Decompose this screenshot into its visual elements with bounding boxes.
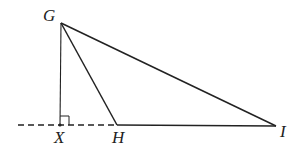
segment-gx-altitude — [60, 23, 61, 125]
label-g: G — [43, 6, 55, 25]
label-x: X — [53, 128, 65, 147]
right-angle-marker — [60, 116, 69, 125]
segment-gi — [61, 23, 276, 126]
label-h: H — [111, 128, 126, 147]
label-i: I — [279, 122, 287, 141]
segment-hi — [117, 125, 276, 126]
geometry-diagram: G X H I — [0, 0, 306, 153]
point-x-dot — [58, 123, 61, 126]
segment-gh — [61, 23, 117, 125]
